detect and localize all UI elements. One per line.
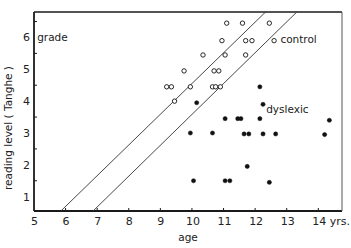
open-circle-marker <box>213 85 217 89</box>
x-tick-label: 5 <box>31 215 38 228</box>
filled-circle-marker <box>323 132 327 136</box>
open-circle-marker <box>220 38 224 42</box>
open-circle-marker <box>188 85 192 89</box>
filled-circle-marker <box>274 132 278 136</box>
filled-circle-marker <box>223 179 227 183</box>
open-circle-marker <box>217 69 221 73</box>
filled-circle-marker <box>247 132 251 136</box>
open-circle-marker <box>201 53 205 57</box>
filled-circle-marker <box>327 118 331 122</box>
x-tick-label: 10 <box>186 215 200 228</box>
x-tick-label: 9 <box>157 215 164 228</box>
band-lower-bound <box>61 12 266 211</box>
open-circle-marker <box>164 85 168 89</box>
open-circle-marker <box>250 38 254 42</box>
filled-circle-marker <box>188 131 192 135</box>
filled-circle-marker <box>261 102 265 106</box>
filled-circle-marker <box>191 179 195 183</box>
y-tick-label: 6 <box>23 31 30 44</box>
reference-lines <box>61 12 297 211</box>
open-circle-marker <box>218 85 222 89</box>
filled-circle-marker <box>261 132 265 136</box>
series-control <box>164 21 276 103</box>
filled-circle-marker <box>245 164 249 168</box>
filled-circle-marker <box>242 132 246 136</box>
x-tick-label: 13 <box>281 215 295 228</box>
y-tick-label: 4 <box>23 95 30 108</box>
open-circle-marker <box>243 38 247 42</box>
y-tick-label: 5 <box>23 63 30 76</box>
open-circle-marker <box>267 21 271 25</box>
filled-circle-marker <box>210 131 214 135</box>
y-tick-label: 1 <box>23 191 30 204</box>
series-dyslexic <box>188 85 331 185</box>
x-axis-title: age <box>178 231 198 243</box>
open-circle-marker <box>212 69 216 73</box>
annotation-grade: grade <box>37 31 68 43</box>
x-tick-label: 7 <box>94 215 101 228</box>
filled-circle-marker <box>228 179 232 183</box>
filled-circle-marker <box>239 117 243 121</box>
open-circle-marker <box>272 38 276 42</box>
open-circle-marker <box>169 85 173 89</box>
filled-circle-marker <box>267 180 271 184</box>
filled-circle-marker <box>258 117 262 121</box>
annotation-control: control <box>280 33 316 45</box>
x-tick-label: 14 yrs. <box>312 215 350 228</box>
y-tick-label: 3 <box>23 127 30 140</box>
open-circle-marker <box>223 53 227 57</box>
filled-circle-marker <box>223 117 227 121</box>
y-axis: 123456 <box>23 22 37 204</box>
scatter-chart: 567891011121314 yrs. 123456 controldysle… <box>0 0 351 248</box>
annotation-dyslexic: dyslexic <box>266 103 309 115</box>
y-tick-label: 2 <box>23 159 30 172</box>
filled-circle-marker <box>258 85 262 89</box>
open-circle-marker <box>182 69 186 73</box>
x-tick-label: 12 <box>249 215 263 228</box>
open-circle-marker <box>172 99 176 103</box>
open-circle-marker <box>243 53 247 57</box>
x-tick-label: 6 <box>63 215 70 228</box>
x-tick-label: 11 <box>218 215 232 228</box>
filled-circle-marker <box>195 101 199 105</box>
open-circle-marker <box>240 21 244 25</box>
x-tick-label: 8 <box>126 215 133 228</box>
open-circle-marker <box>224 21 228 25</box>
y-axis-title: reading level ( Tanghe ) <box>2 66 14 190</box>
annotations: controldyslexicgrade <box>37 31 317 115</box>
